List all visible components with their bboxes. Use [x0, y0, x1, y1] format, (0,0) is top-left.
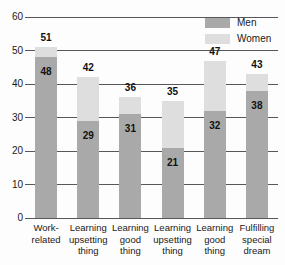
- legend-label: Men: [237, 18, 256, 28]
- y-tick-10: 10: [0, 180, 23, 190]
- bar-total-label: 43: [237, 60, 277, 70]
- bar-total-label: 47: [195, 47, 235, 57]
- bar-men-label: 31: [119, 124, 141, 134]
- bar-segment-women[interactable]: [162, 101, 184, 148]
- bar-segment-women[interactable]: [204, 61, 226, 111]
- y-tick-40: 40: [0, 79, 23, 89]
- y-tick-label: 20: [1, 146, 23, 156]
- y-tick-20: 20: [0, 146, 23, 156]
- bar-group[interactable]: [77, 77, 99, 218]
- legend-swatch-icon: [205, 34, 230, 44]
- bar-segment-men[interactable]: [35, 57, 57, 218]
- bar-men-label: 21: [162, 158, 184, 168]
- x-axis-label-line: dream: [231, 245, 283, 257]
- bar-group[interactable]: [204, 61, 226, 218]
- bar-men-label: 29: [77, 131, 99, 141]
- legend-label: Women: [237, 34, 271, 44]
- bar-total-label: 42: [68, 63, 108, 73]
- y-tick-label: 50: [1, 46, 23, 56]
- x-axis-label: Fulfillingspecialdream: [231, 222, 283, 257]
- x-axis-labels: Work-relatedLearningupsettingthingLearni…: [25, 222, 278, 264]
- legend-item-women[interactable]: Women: [205, 32, 283, 46]
- x-axis-label-line: special: [231, 234, 283, 246]
- bar-group[interactable]: [246, 74, 268, 218]
- stacked-bar-chart: 6050403020100 514842293631352147324338 M…: [0, 0, 285, 265]
- bar-segment-women[interactable]: [119, 97, 141, 114]
- bar-total-label: 51: [26, 33, 66, 43]
- y-tick-label: 60: [1, 12, 23, 22]
- y-tick-60: 60: [0, 12, 23, 22]
- bar-men-label: 38: [246, 101, 268, 111]
- bar-segment-women[interactable]: [77, 77, 99, 121]
- legend-swatch-icon: [205, 18, 230, 28]
- legend: MenWomen: [205, 16, 283, 48]
- bar-men-label: 48: [35, 67, 57, 77]
- bar-men-label: 32: [204, 121, 226, 131]
- bar-segment-women[interactable]: [246, 74, 268, 91]
- bar-total-label: 35: [153, 87, 193, 97]
- y-tick-label: 10: [1, 180, 23, 190]
- bar-segment-women[interactable]: [35, 47, 57, 57]
- y-tick-50: 50: [0, 46, 23, 56]
- bar-group[interactable]: [119, 97, 141, 218]
- x-axis-label-line: Fulfilling: [231, 222, 283, 234]
- bar-total-label: 36: [110, 83, 150, 93]
- legend-item-men[interactable]: Men: [205, 16, 283, 30]
- y-tick-label: 30: [1, 113, 23, 123]
- y-tick-label: 40: [1, 79, 23, 89]
- y-tick-30: 30: [0, 113, 23, 123]
